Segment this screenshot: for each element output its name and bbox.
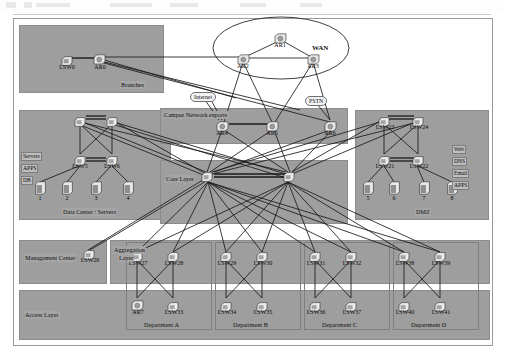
- device-lsw34[interactable]: [220, 298, 232, 308]
- device-lsw35[interactable]: [256, 298, 268, 308]
- zone-label-access: Access Layer: [24, 311, 60, 319]
- zone-label-datacenter: Data Center / Servers: [62, 208, 117, 216]
- header-divider: [13, 14, 491, 15]
- device-ar3[interactable]: [307, 51, 320, 62]
- cloud-pstn: PSTN: [305, 96, 327, 106]
- device-dc-server-1[interactable]: [35, 181, 46, 195]
- department-label-b: Department B: [233, 321, 268, 329]
- label-dc-server-3: 3: [89, 195, 103, 202]
- department-label-d: Department D: [411, 321, 446, 329]
- device-dc-server-2[interactable]: [62, 181, 73, 195]
- device-dmz-server-7[interactable]: [419, 181, 430, 195]
- zone-datacenter: [19, 110, 171, 220]
- label-ar4: AR4: [210, 130, 234, 137]
- label-dmz-server-8: 8: [445, 195, 459, 202]
- label-lsw37: LSW37: [338, 309, 366, 316]
- device-ar0[interactable]: [93, 51, 106, 62]
- label-ar5: AR5: [260, 130, 284, 137]
- toolbar-ghost-mark-2: [24, 2, 32, 8]
- device-lsw36[interactable]: [309, 298, 321, 308]
- device-lsw39[interactable]: [434, 248, 446, 258]
- label-dc-server-1: 1: [33, 195, 47, 202]
- device-lsw38[interactable]: [398, 248, 410, 258]
- label-dc-server-2: 2: [60, 195, 74, 202]
- device-lsw29[interactable]: [220, 248, 232, 258]
- device-dc-top-switch-2[interactable]: [106, 113, 118, 123]
- label-lsw41: LSW41: [427, 309, 455, 316]
- zone-label-dmz: DMZ: [415, 208, 431, 216]
- device-lsw6[interactable]: [106, 152, 118, 162]
- label-lsw23: LSW23: [371, 124, 399, 131]
- device-lsw31[interactable]: [309, 248, 321, 258]
- label-ar1: AR1: [268, 42, 292, 49]
- device-ar5[interactable]: [266, 118, 279, 129]
- device-lsw22[interactable]: [412, 152, 424, 162]
- toolbar-ghost-mark-4: [110, 3, 152, 7]
- tag-apps-dc: APPS: [21, 164, 38, 173]
- toolbar-ghost-mark-1: [6, 2, 16, 8]
- device-ar4[interactable]: [216, 118, 229, 129]
- label-lsw0: LSW0: [55, 64, 79, 71]
- device-ar1[interactable]: [274, 30, 287, 41]
- device-lsw30[interactable]: [256, 248, 268, 258]
- zone-label-management: Management Center: [24, 254, 76, 262]
- device-lsw33[interactable]: [167, 298, 179, 308]
- device-lsw21[interactable]: [378, 152, 390, 162]
- toolbar-ghost: [0, 0, 505, 12]
- department-label-c: Department C: [322, 321, 357, 329]
- device-ar2[interactable]: [237, 51, 250, 62]
- device-dc-top-switch-1[interactable]: [74, 113, 86, 123]
- toolbar-ghost-mark-7: [300, 3, 322, 7]
- toolbar-ghost-mark-5: [170, 3, 198, 7]
- label-lsw21: LSW21: [371, 163, 399, 170]
- device-lsw5[interactable]: [74, 152, 86, 162]
- label-lsw5: LSW5: [67, 163, 93, 170]
- device-dc-server-3[interactable]: [91, 181, 102, 195]
- device-lsw28[interactable]: [167, 248, 179, 258]
- device-lsw40[interactable]: [398, 298, 410, 308]
- label-lsw26: LSW26: [76, 257, 104, 264]
- cloud-internet: Internet: [190, 92, 216, 102]
- tag-dns: DNS: [452, 157, 467, 166]
- label-ar0: AR0: [88, 64, 112, 71]
- zone-label-aggregation-line1: Aggregation: [113, 246, 146, 254]
- label-lsw34: LSW34: [213, 309, 241, 316]
- label-dc-server-4: 4: [121, 195, 135, 202]
- device-core-switch-2[interactable]: [283, 168, 295, 178]
- label-dmz-server-5: 5: [361, 195, 375, 202]
- device-lsw32[interactable]: [345, 248, 357, 258]
- label-ar3: AR3: [301, 63, 325, 70]
- device-lsw26[interactable]: [83, 246, 95, 256]
- label-dmz-server-7: 7: [417, 195, 431, 202]
- device-dmz-server-6[interactable]: [389, 181, 400, 195]
- device-lsw0[interactable]: [61, 52, 73, 62]
- device-lsw24[interactable]: [412, 113, 424, 123]
- device-lsw23[interactable]: [378, 113, 390, 123]
- label-lsw32: LSW32: [338, 260, 366, 267]
- device-ar6[interactable]: [324, 118, 337, 129]
- device-ar7[interactable]: [131, 297, 144, 308]
- label-lsw36: LSW36: [302, 309, 330, 316]
- tag-email: Email: [452, 169, 469, 178]
- toolbar-ghost-mark-3: [36, 3, 70, 7]
- label-lsw39: LSW39: [427, 260, 455, 267]
- zone-label-aggregation-line2: Layer: [118, 254, 134, 262]
- label-lsw28: LSW28: [160, 260, 188, 267]
- label-lsw35: LSW35: [249, 309, 277, 316]
- label-lsw29: LSW29: [213, 260, 241, 267]
- network-diagram-page: Internet PSTN WAN LSW0 AR0 AR1 AR2 AR3 A…: [0, 0, 505, 354]
- zone-label-core: Core Layer: [165, 175, 195, 183]
- device-core-switch-1[interactable]: [201, 168, 213, 178]
- label-dmz-server-6: 6: [387, 195, 401, 202]
- label-lsw33: LSW33: [160, 309, 188, 316]
- department-label-a: Department A: [144, 321, 179, 329]
- tag-db: DB: [21, 176, 33, 185]
- label-lsw24: LSW24: [405, 124, 433, 131]
- toolbar-ghost-mark-6: [240, 3, 266, 7]
- device-lsw37[interactable]: [345, 298, 357, 308]
- zone-core-layer: [160, 160, 348, 224]
- device-lsw41[interactable]: [434, 298, 446, 308]
- device-dmz-server-5[interactable]: [363, 181, 374, 195]
- label-lsw40: LSW40: [391, 309, 419, 316]
- device-dc-server-4[interactable]: [123, 181, 134, 195]
